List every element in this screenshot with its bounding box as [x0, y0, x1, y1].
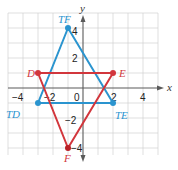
label-td: TD	[6, 108, 20, 120]
label-f: F	[63, 152, 71, 164]
label-te: TE	[115, 109, 128, 121]
y-axis-label: y	[79, 2, 85, 14]
x-tick-label: −4	[12, 92, 24, 103]
label-d: D	[26, 67, 35, 79]
vertex-f	[65, 145, 71, 151]
origin-label: 0	[74, 92, 80, 103]
y-tick-label: −4	[71, 143, 83, 154]
label-tf: TF	[58, 13, 71, 25]
vertex-td	[35, 100, 41, 106]
vertex-te	[110, 100, 116, 106]
vertex-tf	[65, 25, 71, 31]
x-tick-label: 4	[140, 92, 146, 103]
y-tick-label: −2	[65, 115, 77, 126]
y-tick-label: 2	[72, 53, 78, 64]
x-axis-label: x	[166, 81, 172, 93]
y-axis-arrow-down-icon	[81, 155, 86, 162]
x-axis-arrow-icon	[157, 86, 164, 91]
y-axis-arrow-icon	[81, 15, 86, 22]
vertex-e	[110, 70, 116, 76]
coordinate-plane: x y −4 −2 0 2 4 4 2 −2 −4 TF TD TE D E F	[0, 0, 178, 170]
label-e: E	[118, 67, 126, 79]
vertex-d	[35, 70, 41, 76]
